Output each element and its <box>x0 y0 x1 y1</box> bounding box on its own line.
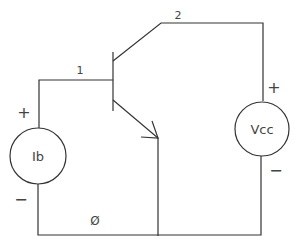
node-label-base: 1 <box>77 64 84 77</box>
vcc-plus: + <box>267 78 280 97</box>
vcc-label: Vcc <box>250 122 273 137</box>
ib-minus: − <box>14 190 27 209</box>
ib-plus: + <box>17 103 30 122</box>
node-label-collector: 2 <box>175 9 182 22</box>
emitter-wire <box>113 100 158 236</box>
ib-label: Ib <box>32 149 44 164</box>
node-label-ground: Ø <box>90 214 99 228</box>
vcc-minus: − <box>269 161 282 180</box>
ground-wire <box>38 156 261 235</box>
circuit-diagram: Ib + − Vcc + − 1 2 Ø <box>0 0 302 250</box>
collector-wire <box>113 23 263 101</box>
base-wire <box>39 80 113 128</box>
